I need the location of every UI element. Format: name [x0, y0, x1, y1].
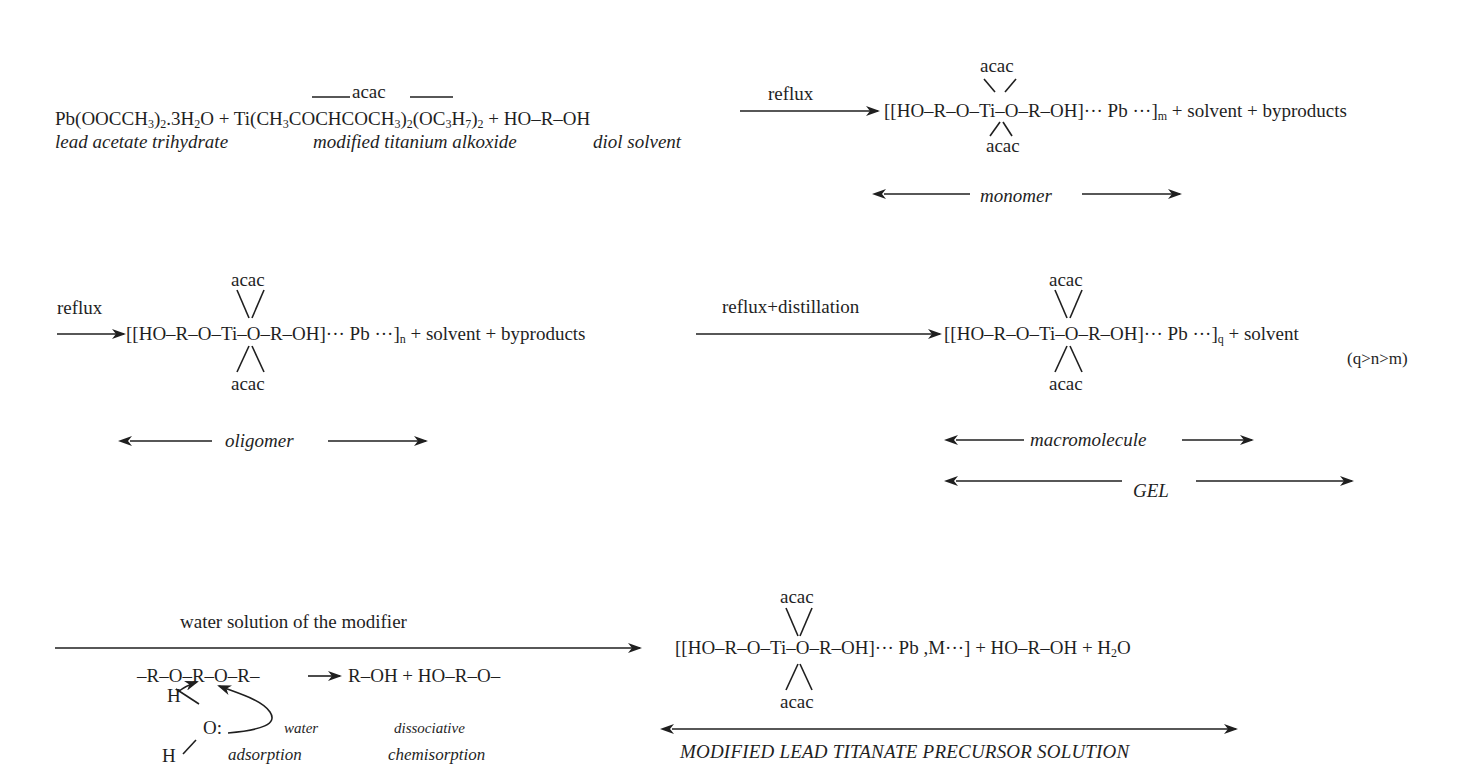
acac-top-2: acac: [231, 270, 265, 289]
product-oligomer: [[HO–R–O–Ti–O–R–OH]··· Pb ···]n + solven…: [126, 324, 585, 343]
gel-label: GEL: [1133, 481, 1169, 500]
reflux-distillation-label: reflux+distillation: [722, 297, 859, 316]
bond-h-o-bottom: [183, 740, 196, 754]
condition-q-n-m: (q>n>m): [1347, 350, 1408, 367]
bond: [1070, 346, 1082, 372]
bond: [252, 346, 264, 372]
product-macromolecule: [[HO–R–O–Ti–O–R–OH]··· Pb ···]q + solven…: [944, 324, 1299, 343]
reactant-titanium-alkoxide: Ti(CH3COCHCOCH3)2(OC3H7)2: [234, 108, 484, 129]
acac-top-1: acac: [980, 56, 1014, 75]
acac-top-4: acac: [780, 587, 814, 606]
label-titanium-alkoxide: modified titanium alkoxide: [313, 132, 517, 151]
label-diol-solvent: diol solvent: [593, 132, 681, 151]
bond: [786, 664, 798, 690]
acac-bottom-4: acac: [780, 692, 814, 711]
bond: [1003, 122, 1012, 136]
water-solution-label: water solution of the modifier: [180, 612, 407, 631]
monomer-label: monomer: [980, 186, 1052, 205]
mechanism-chain: –R–O–R–O–R–: [137, 666, 259, 685]
reactant-diol: HO–R–OH: [504, 108, 591, 129]
label-lead-acetate: lead acetate trihydrate: [55, 132, 228, 151]
acac-bottom-3: acac: [1049, 374, 1083, 393]
bond: [800, 664, 812, 690]
bond: [1070, 290, 1082, 318]
macromolecule-label: macromolecule: [1030, 430, 1146, 449]
mechanism-o: O:: [203, 718, 222, 737]
product-monomer: [[HO–R–O–Ti–O–R–OH]··· Pb ···]m + solven…: [884, 101, 1347, 120]
mechanism-products: R–OH + HO–R–O–: [348, 666, 500, 685]
curly-arrow-large: [219, 686, 272, 733]
bond: [237, 346, 249, 372]
bond: [1055, 346, 1067, 372]
bond: [1005, 79, 1016, 92]
oligomer-label: oligomer: [225, 431, 294, 450]
reactant-lead-acetate: Pb(OOCCH3)2.3H2O + Ti(CH3COCHCOCH3)2(OC3…: [55, 109, 590, 128]
acac-bottom-2: acac: [231, 374, 265, 393]
reflux-label-2: reflux: [57, 298, 102, 317]
acac-overlabel: acac: [352, 82, 386, 101]
acac-bottom-1: acac: [986, 136, 1020, 155]
label-water: water: [284, 721, 318, 736]
label-dissociative: dissociative: [394, 721, 465, 736]
mechanism-h-bottom: H: [162, 746, 176, 765]
bond: [990, 122, 1000, 136]
label-adsorption: adsorption: [228, 746, 302, 763]
bond: [800, 608, 812, 636]
product-precursor: [[HO–R–O–Ti–O–R–OH]··· Pb ,M···] + HO–R–…: [675, 638, 1131, 657]
bond: [252, 290, 264, 318]
precursor-solution-label: MODIFIED LEAD TITANATE PRECURSOR SOLUTIO…: [680, 742, 1129, 761]
bond: [1055, 290, 1067, 318]
acac-top-3: acac: [1049, 270, 1083, 289]
reflux-label-1: reflux: [768, 84, 813, 103]
mechanism-h-top: H: [167, 686, 181, 705]
label-chemisorption: chemisorption: [388, 746, 485, 763]
bond: [984, 79, 995, 92]
bond: [237, 290, 249, 318]
bond: [786, 608, 798, 636]
